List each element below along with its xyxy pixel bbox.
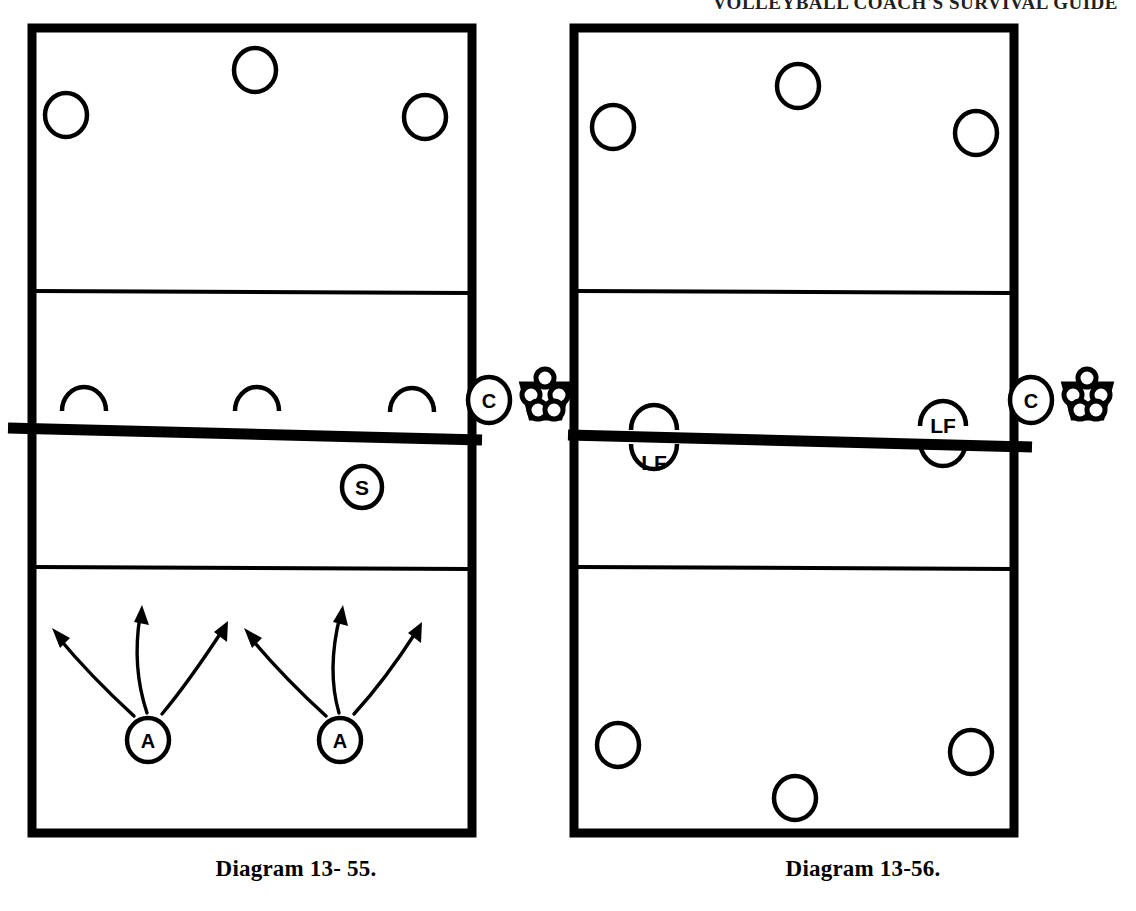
far-player-center [777, 64, 819, 108]
ball-cart-ball-low-right [1087, 401, 1105, 419]
figure-diagram-13-56: LF LF C Diagram 13-56. [568, 0, 1136, 911]
ball-cart-ball-low-right [545, 401, 563, 419]
far-attack-line [34, 291, 470, 293]
figure-caption-left: Diagram 13- 55. [0, 856, 568, 882]
ball-cart-ball-top [536, 369, 554, 387]
court-stage-right: LF LF C [568, 0, 1136, 860]
left-front-far-label: LF [930, 414, 956, 437]
attacker-right-label: A [333, 730, 347, 752]
far-player-left [592, 105, 634, 149]
ball-cart [1064, 369, 1111, 419]
far-player-left [45, 93, 87, 137]
near-attack-line [576, 567, 1012, 569]
court-stage-left: S A A C [0, 0, 568, 860]
far-player-center [234, 48, 276, 92]
ball-cart-ball-top [1078, 369, 1096, 387]
left-front-near-label: LF [641, 451, 667, 474]
coach-label: C [1024, 390, 1038, 412]
near-player-left [597, 723, 639, 767]
setter-label: S [355, 476, 369, 499]
ball-cart [522, 369, 569, 419]
figure-diagram-13-55: S A A C [0, 0, 568, 911]
far-player-right [404, 95, 446, 139]
far-player-right [955, 111, 997, 155]
attacker-left-label: A [141, 730, 155, 752]
coach-label: C [482, 390, 496, 412]
figure-caption-right: Diagram 13-56. [568, 856, 1136, 882]
far-attack-line [576, 291, 1012, 293]
near-player-center [774, 776, 816, 820]
near-attack-line [34, 567, 470, 569]
near-player-right [950, 730, 992, 774]
